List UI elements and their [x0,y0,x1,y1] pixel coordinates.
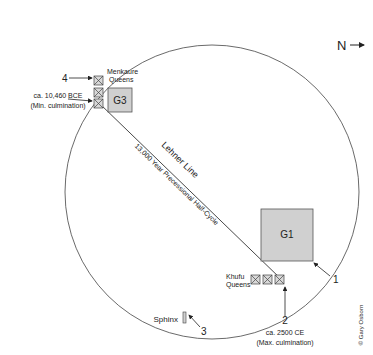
north-label: N [337,38,346,53]
khufu-label-2: Queens [226,281,251,289]
marker-3-arrow [189,315,200,327]
credit: © Gary Osborn [358,305,364,345]
north-compass: N [337,38,364,53]
min-label: (Min. culmination) [30,102,85,110]
menkaure-label-1: Menkaure [107,68,138,75]
max-date: ca. 2500 CE [266,329,305,336]
marker-1-arrow [314,263,330,276]
khufu-queens [251,275,284,284]
marker-3: 3 [201,326,207,337]
min-arrow [68,99,92,101]
pyramid-g3: G3 [108,88,132,112]
marker-1: 1 [333,274,339,285]
g3-label: G3 [113,95,127,106]
giza-diagram: N G3 Menkaure Queens 4 ca. 10,460 BCE (M… [0,0,373,355]
khufu-label-1: Khufu [226,273,244,280]
menkaure-label-2: Queens [109,76,134,84]
min-date: ca. 10,460 BCE [33,92,82,99]
g1-label: G1 [280,229,294,240]
marker-4: 4 [62,73,68,84]
sphinx-label: Sphinx [154,315,178,324]
pyramid-g1: G1 [261,209,313,261]
marker-2: 2 [282,315,288,326]
sphinx-shape [183,312,186,323]
menkaure-queens [94,76,103,108]
max-label: (Max. culmination) [256,339,313,347]
